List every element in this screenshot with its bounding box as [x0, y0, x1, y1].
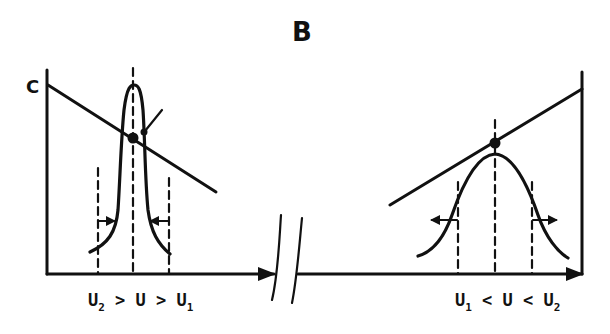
axis-break-mark-left [272, 215, 281, 300]
right-intersection-dot [490, 138, 501, 149]
right-condition-label: U1 < U < U2 [455, 290, 560, 314]
diagram-canvas: B C U2 > U > U1 [0, 0, 610, 334]
left-condition-label: U2 > U > U1 [88, 290, 194, 314]
right-panel: U1 < U < U2 [298, 72, 582, 314]
right-broad-peak [418, 154, 568, 258]
figure-title: B [292, 17, 312, 47]
axis-break [272, 215, 302, 303]
left-intersection-dot [128, 133, 139, 144]
left-panel: U2 > U > U1 [47, 68, 274, 314]
left-narrow-peak [90, 85, 170, 254]
right-sloped-line [390, 89, 582, 205]
axis-break-mark-right [292, 218, 302, 303]
y-axis-label: C [26, 76, 39, 97]
left-pointer-line [145, 110, 162, 131]
